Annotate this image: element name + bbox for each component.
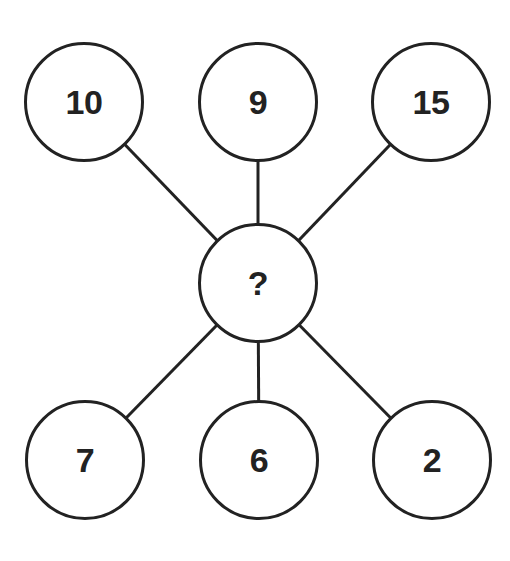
node-label: 10 xyxy=(66,83,103,122)
puzzle-diagram: 10 9 15 ? 7 6 2 xyxy=(0,0,510,561)
node-label: 6 xyxy=(250,441,268,480)
node-label: 15 xyxy=(413,83,450,122)
question-mark-label: ? xyxy=(248,264,268,303)
node-top-right: 15 xyxy=(371,42,491,162)
node-label: 7 xyxy=(76,441,94,480)
node-top-left: 10 xyxy=(24,42,144,162)
node-top-middle: 9 xyxy=(198,42,318,162)
node-bottom-left: 7 xyxy=(25,400,145,520)
node-bottom-right: 2 xyxy=(372,400,492,520)
node-center-unknown: ? xyxy=(198,223,318,343)
node-label: 2 xyxy=(423,441,441,480)
node-bottom-middle: 6 xyxy=(199,400,319,520)
node-label: 9 xyxy=(249,83,267,122)
